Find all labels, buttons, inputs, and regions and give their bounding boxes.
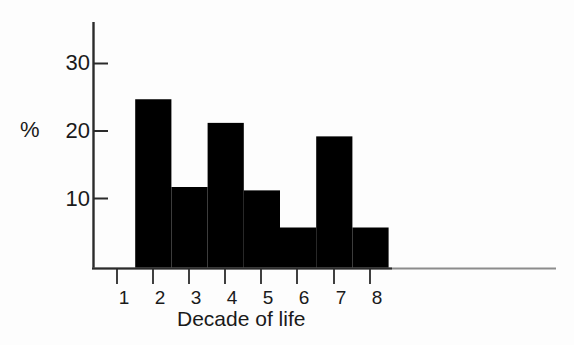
- y-tick-label-10: 10: [66, 188, 90, 210]
- histogram-figure: 30 20 10 % 1 2 3 4 5 6 7 8 Decade of lif…: [0, 0, 574, 345]
- x-tick-label-7: 7: [336, 288, 347, 307]
- x-tick-label-4: 4: [227, 288, 238, 307]
- x-axis-title: Decade of life: [177, 308, 305, 329]
- x-tick-label-5: 5: [263, 288, 274, 307]
- bar-decade-3: [171, 187, 207, 268]
- bar-decade-8: [352, 228, 388, 269]
- bar-decade-4: [208, 123, 244, 268]
- x-tick-label-1: 1: [119, 288, 130, 307]
- bar-decade-7: [316, 136, 352, 268]
- x-tick-label-2: 2: [155, 288, 166, 307]
- y-tick-label-20: 20: [66, 120, 90, 142]
- bar-decade-6: [280, 228, 316, 269]
- x-tick-label-8: 8: [372, 288, 383, 307]
- y-tick-label-30: 30: [66, 52, 90, 74]
- x-tick-label-3: 3: [191, 288, 202, 307]
- x-tick-label-6: 6: [299, 288, 310, 307]
- y-axis-title: %: [20, 119, 40, 141]
- bar-decade-5: [244, 190, 280, 268]
- bar-decade-2: [135, 99, 171, 268]
